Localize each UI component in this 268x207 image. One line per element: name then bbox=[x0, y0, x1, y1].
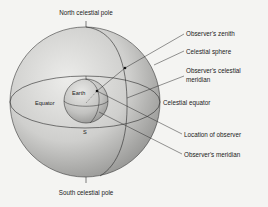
celestial-sphere-diagram: North celestial pole South celestial pol… bbox=[0, 0, 268, 207]
leader-celestial-sphere bbox=[154, 51, 184, 65]
callout-meridian: Observer's meridian bbox=[184, 151, 241, 158]
callout-celestial-meridian-2: meridian bbox=[186, 76, 211, 83]
south-label: S bbox=[83, 129, 87, 135]
callout-celestial-equator: Celestial equator bbox=[163, 99, 210, 107]
south-celestial-pole-label: South celestial pole bbox=[59, 189, 114, 197]
callout-location: Location of observer bbox=[184, 131, 241, 138]
earth-shape bbox=[64, 79, 108, 123]
north-celestial-pole-label: North celestial pole bbox=[59, 9, 113, 17]
callout-celestial-sphere: Celestial sphere bbox=[186, 48, 232, 56]
callout-celestial-meridian-1: Observer's celestial bbox=[186, 67, 241, 74]
earth-label: Earth bbox=[72, 90, 85, 96]
callout-zenith: Observer's zenith bbox=[186, 30, 235, 37]
equator-label: Equator bbox=[35, 100, 55, 106]
